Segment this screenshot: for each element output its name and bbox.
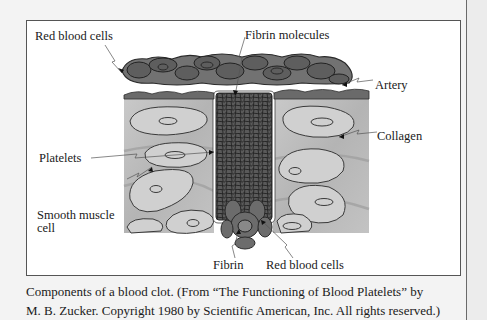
blood-clot-illustration	[27, 21, 462, 277]
label-fibrin: Fibrin	[213, 259, 244, 272]
caption-line-2: M. B. Zucker. Copyright 1980 by Scientif…	[26, 301, 471, 320]
label-smooth-muscle-line2: cell	[37, 221, 55, 235]
label-collagen: Collagen	[377, 130, 422, 143]
label-platelets: Platelets	[39, 152, 81, 165]
caption-line-1: Components of a blood clot. (From “The F…	[26, 282, 471, 301]
label-red-blood-cells-bottom: Red blood cells	[266, 259, 344, 272]
label-smooth-muscle-cell: Smooth muscle cell	[37, 209, 114, 235]
label-fibrin-molecules: Fibrin molecules	[245, 29, 329, 42]
label-red-blood-cells-top: Red blood cells	[35, 30, 113, 43]
page-margin-strip	[466, 0, 487, 320]
label-smooth-muscle-line1: Smooth muscle	[37, 208, 114, 222]
figure-caption: Components of a blood clot. (From “The F…	[26, 282, 471, 320]
figure-blood-clot: Red blood cells Fibrin molecules Artery …	[26, 20, 461, 276]
label-artery: Artery	[375, 79, 408, 92]
